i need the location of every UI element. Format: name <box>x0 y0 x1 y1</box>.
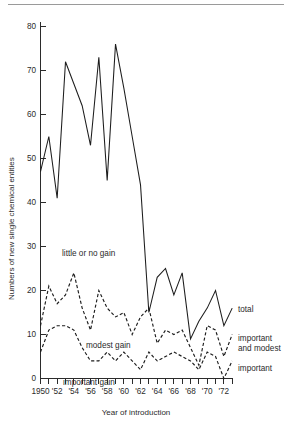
line-chart-svg: 0 10 20 30 40 50 60 70 80 <box>0 0 291 428</box>
x-tick-label-54: '54 <box>68 387 79 396</box>
y-tick-label-10: 10 <box>27 330 37 339</box>
series-line-important <box>41 326 233 379</box>
scan-artifact-line <box>8 4 284 5</box>
legend-label-important: important <box>238 364 273 373</box>
chart-figure: 0 10 20 30 40 50 60 70 80 <box>0 0 291 428</box>
x-tick-label-56: '56 <box>85 387 96 396</box>
y-tick-label-80: 80 <box>27 22 37 31</box>
series-line-important-and-modest <box>41 273 233 365</box>
series-line-total <box>41 44 233 339</box>
y-tick-label-30: 30 <box>27 242 37 251</box>
y-tick-label-20: 20 <box>27 286 37 295</box>
x-tick-label-68: '68 <box>185 387 196 396</box>
x-tick-label-1950: 1950 <box>31 387 50 396</box>
x-tick-label-70: '70 <box>202 387 213 396</box>
x-tick-label-52: '52 <box>52 387 63 396</box>
y-tick-label-60: 60 <box>27 110 37 119</box>
annotation-modest-gain: modest gain <box>86 341 131 350</box>
x-tick-label-64: '64 <box>152 387 163 396</box>
annotation-important-gain: important gain <box>63 378 115 387</box>
y-tick-label-0: 0 <box>31 374 36 383</box>
x-tick-label-72: '72 <box>218 387 229 396</box>
x-tick-label-60: '60 <box>118 387 129 396</box>
y-axis-tick-labels: 0 10 20 30 40 50 60 70 80 <box>27 22 37 383</box>
y-axis-ticks <box>41 27 47 379</box>
x-tick-label-58: '58 <box>102 387 113 396</box>
annotation-little-or-no-gain: little or no gain <box>62 249 116 258</box>
legend-label-important-and-modest-line2: and modest <box>238 344 282 353</box>
x-axis-tick-labels: 1950 '52 '54 '56 '58 '60 '62 '64 '66 '68… <box>31 387 229 396</box>
x-tick-label-62: '62 <box>135 387 146 396</box>
x-axis-title: Year of introduction <box>102 408 171 417</box>
y-tick-label-40: 40 <box>27 198 37 207</box>
x-tick-label-66: '66 <box>168 387 179 396</box>
y-tick-label-70: 70 <box>27 66 37 75</box>
y-tick-label-50: 50 <box>27 154 37 163</box>
y-axis-title: Numbers of new single chemical entities <box>7 157 16 300</box>
legend-label-total: total <box>238 305 254 314</box>
legend-label-important-and-modest-line1: important <box>238 334 273 343</box>
